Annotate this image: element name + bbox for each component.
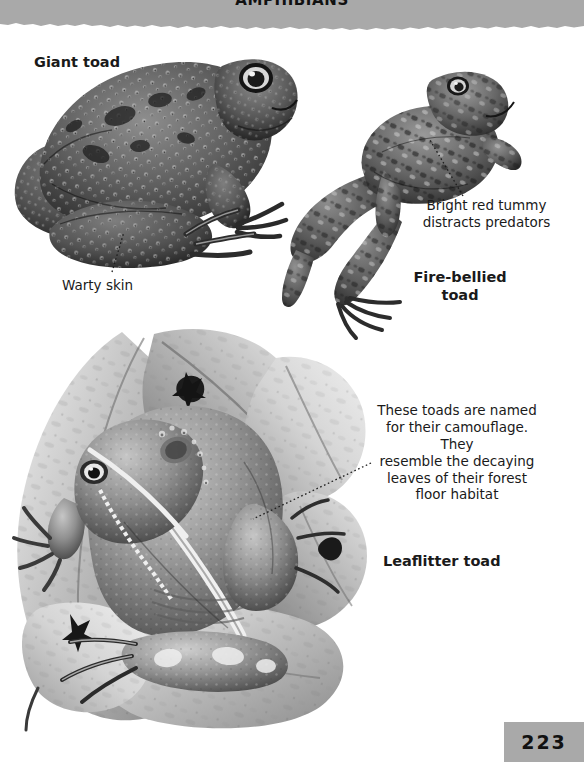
label-fire-bellied-toad: Fire-bellied toad [400, 268, 520, 304]
banner-torn-edge-icon [0, 18, 584, 30]
leaflitter-toad-illustration [4, 322, 374, 734]
label-giant-toad: Giant toad [34, 53, 120, 71]
giant-toad-illustration [0, 34, 300, 309]
page-number: 223 [521, 731, 567, 753]
label-warty-skin: Warty skin [62, 277, 133, 294]
page-header-banner: AMPHIBIANS [0, 0, 584, 30]
book-page: AMPHIBIANS [0, 0, 584, 769]
leaf-stem [26, 688, 38, 730]
label-camouflage-caption: These toads are named for their camoufla… [373, 402, 541, 503]
page-number-badge: 223 [504, 722, 584, 762]
label-leaflitter-toad: Leaflitter toad [383, 552, 501, 570]
label-bright-red-tummy: Bright red tummy distracts predators [414, 197, 559, 231]
banner-title: AMPHIBIANS [0, 0, 584, 9]
